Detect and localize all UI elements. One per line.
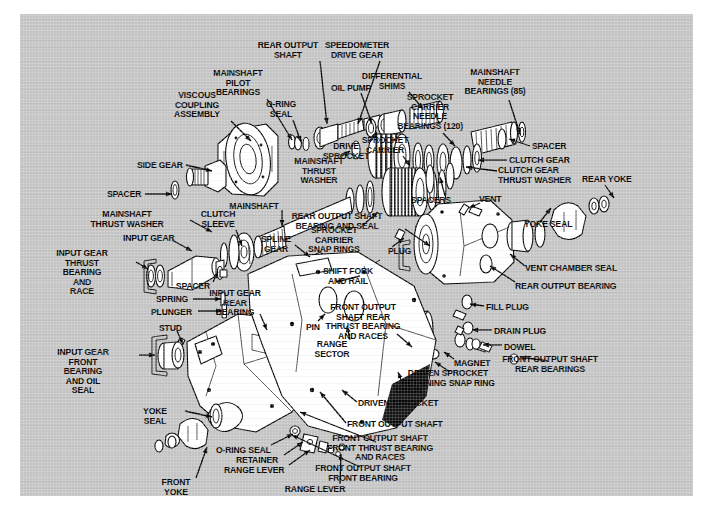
leader-input-gear-front-bearing-and-oil-seal — [139, 353, 155, 358]
label-sprocket-carrier-needle-bearings: SPROCKET CARRIER NEEDLE BEARINGS (120) — [397, 93, 463, 131]
drain-plug-part — [455, 322, 473, 335]
label-side-gear: SIDE GEAR — [137, 161, 183, 171]
label-front-output-shaft-front-thrust-bearing-and-races: FRONT OUTPUT SHAFT FRONT THRUST BEARING … — [327, 434, 433, 463]
label-dowel: DOWEL — [504, 343, 535, 353]
label-range-sector: RANGE SECTOR — [315, 340, 350, 359]
leader-drain-plug — [472, 328, 492, 333]
label-spacer-left: SPACER — [107, 190, 141, 200]
label-plug: PLUG — [388, 247, 411, 257]
viscous-coupling-assembly-part — [218, 120, 278, 197]
label-spacer-mid: SPACER — [176, 282, 210, 292]
label-o-ring-seal-top: O-RING SEAL — [266, 100, 296, 119]
label-input-gear: INPUT GEAR — [123, 234, 175, 244]
label-input-gear-thrust-bearing-and-race: INPUT GEAR THRUST BEARING AND RACE — [56, 249, 108, 297]
fill-plug-part — [453, 295, 472, 320]
label-range-lever-collar: RANGE LEVER COLLAR — [285, 485, 345, 496]
label-spacers-group: SPACERS — [411, 196, 451, 206]
label-mainshaft-thrust-washer-top: MAINSHAFT THRUST WASHER — [294, 157, 343, 186]
leader-magnet — [444, 352, 454, 359]
label-yoke-seal-right: YOKE SEAL — [524, 220, 572, 230]
label-front-output-shaft-rear-bearings: FRONT OUTPUT SHAFT REAR BEARINGS — [502, 355, 598, 374]
leader-clutch-gear — [478, 158, 507, 163]
label-sprocket-carrier-snap-rings: SPROCKET CARRIER SNAP RINGS — [308, 226, 360, 255]
label-chain: CHAIN — [395, 386, 421, 396]
label-mainshaft-thrust-washer-left: MAINSHAFT THRUST WASHER — [90, 210, 163, 229]
yoke-seal-left-part — [210, 404, 222, 428]
label-pin: PIN — [306, 323, 320, 333]
leader-input-gear — [172, 240, 192, 251]
leader-spacer-left — [145, 192, 172, 197]
label-vent-chamber-seal: VENT CHAMBER SEAL — [525, 264, 617, 274]
leader-range-lever — [289, 450, 310, 465]
leader-clutch-gear-thrust-washer — [466, 165, 497, 171]
spacer-right-part — [498, 129, 506, 149]
label-mainshaft: MAINSHAFT — [229, 202, 278, 212]
label-shift-fork-and-rail: SHIFT FORK AND RAIL — [323, 267, 373, 286]
label-plunger: PLUNGER — [151, 308, 192, 318]
label-mainshaft-needle-bearings: MAINSHAFT NEEDLE BEARINGS (85) — [464, 68, 525, 97]
label-mainshaft-pilot-bearings: MAINSHAFT PILOT BEARINGS — [213, 69, 262, 98]
diagram-canvas: .o{fill:#fff;stroke:#000;stroke-width:1.… — [20, 14, 693, 496]
label-spline-gear: SPLINE GEAR — [261, 235, 291, 254]
label-drain-plug: DRAIN PLUG — [494, 327, 546, 337]
side-gear-part — [187, 160, 227, 192]
clutch-gear-thrust-washer-part — [463, 146, 471, 174]
label-rear-output-bearing: REAR OUTPUT BEARING — [515, 282, 616, 292]
diagram-page: .o{fill:#fff;stroke:#000;stroke-width:1.… — [0, 0, 706, 510]
o-ring-seal-top-part — [303, 138, 309, 151]
leader-sprocket-carrier-needle-bearings — [443, 133, 455, 146]
leader-mainshaft — [280, 210, 285, 226]
input-gear-thrust-bearing-and-race-part — [144, 259, 165, 294]
label-clutch-sleeve: CLUTCH SLEEVE — [201, 210, 235, 229]
clutch-sleeve-part — [229, 233, 254, 271]
label-front-output-shaft: FRONT OUTPUT SHAFT — [347, 420, 443, 430]
label-viscous-coupling-assembly: VISCOUS COUPLING ASSEMBLY — [174, 91, 220, 120]
label-input-gear-front-bearing-and-oil-seal: INPUT GEAR FRONT BEARING AND OIL SEAL — [57, 348, 109, 396]
spacer-mid-part — [217, 267, 227, 280]
label-clutch-gear-thrust-washer: CLUTCH GEAR THRUST WASHER — [498, 166, 571, 185]
label-sprocket-carrier: SPROCKET CARRIER — [362, 136, 409, 155]
sprocket-carrier-snap-rings-part — [356, 181, 374, 213]
label-speedometer-drive-gear: SPEEDOMETER DRIVE GEAR — [325, 41, 389, 60]
label-yoke-seal-left: YOKE SEAL — [143, 407, 167, 426]
label-rear-yoke: REAR YOKE — [582, 175, 632, 185]
label-oil-pump: OIL PUMP — [331, 84, 371, 94]
leader-o-ring-seal-bottom — [271, 434, 293, 445]
label-input-gear-rear-bearing: INPUT GEAR REAR BEARING — [209, 289, 261, 318]
leader-rear-yoke — [605, 185, 614, 198]
label-vent: VENT — [479, 195, 501, 205]
label-driven-sprocket: DRIVEN SPROCKET — [358, 399, 438, 409]
rear-yoke-part — [550, 196, 609, 240]
leader-front-yoke — [196, 447, 207, 478]
label-range-lever: RANGE LEVER — [224, 466, 284, 476]
leader-input-gear-thrust-bearing-and-race — [136, 262, 148, 269]
label-stud: STUD — [159, 324, 182, 334]
label-front-output-shaft-front-bearing: FRONT OUTPUT SHAFT FRONT BEARING — [315, 464, 411, 483]
label-front-yoke: FRONT YOKE — [162, 478, 191, 496]
label-fill-plug: FILL PLUG — [486, 303, 529, 313]
spacer-left-part — [171, 181, 179, 199]
label-front-output-shaft-rear-thrust-bearing-and-races: FRONT OUTPUT SHAFT REAR THRUST BEARING A… — [326, 303, 401, 341]
label-rear-output-shaft: REAR OUTPUT SHAFT — [258, 41, 318, 60]
label-spring: SPRING — [156, 295, 188, 305]
label-spacer-top-right: SPACER — [532, 142, 566, 152]
leader-rear-output-shaft — [320, 61, 329, 124]
